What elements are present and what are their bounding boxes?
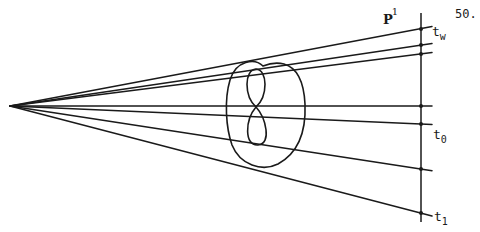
point-t-w [419,27,423,31]
ray-3 [10,53,432,106]
point-2 [419,43,423,47]
label-t-0-base: t [433,127,441,142]
point-t-0 [419,122,423,126]
label-t-1-sub: 1 [442,216,448,227]
pencil-of-lines-diagram [0,0,480,232]
ray-2 [10,44,432,106]
label-t-1: t1 [434,210,448,227]
label-t-0: t0 [433,128,447,145]
point-6 [419,167,423,171]
label-p1: P1 [383,11,398,26]
label-t-w-sub: w [440,31,446,42]
figure-eight-curve [247,69,266,145]
rays [10,27,432,217]
label-p1-base: P [383,12,392,27]
point-4 [419,104,423,108]
label-t-0-sub: 0 [441,134,447,145]
label-t-1-base: t [434,209,442,224]
point-t-1 [419,211,423,215]
ray-t-w [10,27,432,107]
label-t-w-base: t [432,24,440,39]
page-number: 50. [455,8,477,20]
point-3 [419,52,423,56]
label-p1-sup: 1 [392,6,398,17]
label-t-w: tw [432,25,446,42]
